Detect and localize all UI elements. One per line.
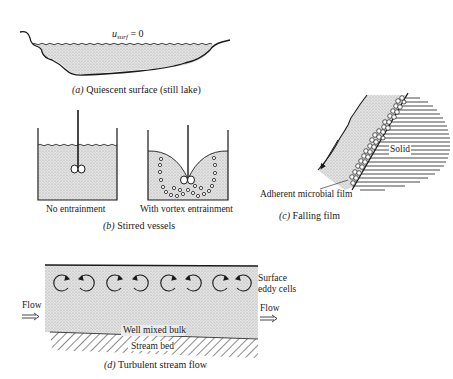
panel-c-falling-film: Solid Adherent microbial film (c) Fallin… (260, 93, 450, 222)
vessel-vortex-entrainment: With vortex entrainment (140, 125, 233, 214)
panel-a-caption: (a) Quiescent surface (still lake) (72, 84, 201, 96)
well-mixed-bulk-label: Well mixed bulk (123, 325, 186, 335)
water-surface-line (45, 265, 258, 266)
flow-in-arrow-icon (22, 313, 39, 320)
microbial-film-label: Adherent microbial film (260, 189, 353, 199)
panel-b-stirred-vessels: No entrainment With vortex entrainment (… (38, 110, 233, 232)
eddy-cells-label-line1: Surface (258, 273, 287, 283)
impeller-blade-right (78, 165, 85, 173)
panel-d-turbulent-stream: Surface eddy cells Flow Flow Well mixed … (22, 265, 297, 371)
impeller-blade-right (188, 176, 195, 184)
diagram-canvas: usurf = 0 (a) Quiescent surface (still l… (0, 0, 453, 379)
flow-out-arrow-icon (260, 315, 277, 322)
panel-a-still-lake: usurf = 0 (a) Quiescent surface (still l… (20, 28, 230, 96)
vortex-entrainment-label: With vortex entrainment (140, 204, 233, 214)
impeller-blade-left (71, 165, 78, 173)
flow-in-label: Flow (22, 300, 42, 310)
flow-out-label: Flow (260, 303, 280, 313)
vessel-no-entrainment: No entrainment (38, 110, 117, 214)
solid-label: Solid (390, 144, 410, 154)
surface-velocity-equation: usurf = 0 (112, 28, 144, 41)
eddy-cells-label-line2: eddy cells (258, 284, 297, 294)
stream-bed-label: Stream bed (131, 341, 174, 351)
lake-water (32, 44, 213, 75)
panel-b-caption: (b) Stirred vessels (103, 220, 175, 232)
panel-c-caption: (c) Falling film (279, 210, 340, 222)
impeller-blade-left (181, 176, 188, 184)
panel-d-caption: (d) Turbulent stream flow (104, 359, 208, 371)
no-entrainment-label: No entrainment (46, 204, 106, 214)
